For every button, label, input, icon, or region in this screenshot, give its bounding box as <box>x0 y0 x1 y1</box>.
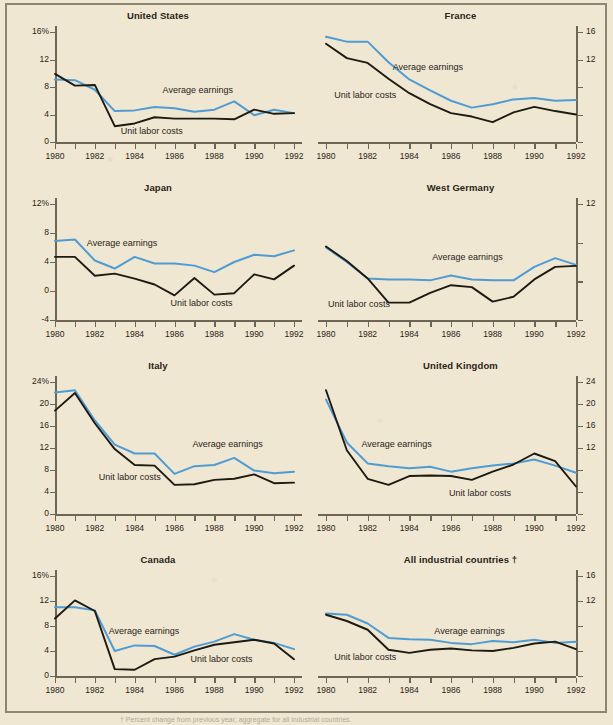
chart-panel-all-industrial-countries: All industrial countries †12161980198219… <box>312 550 609 712</box>
series-plot-area <box>8 178 308 356</box>
series-annotation-average-earnings: Average earnings <box>434 626 504 636</box>
series-line-unit-labor-costs <box>326 44 576 122</box>
series-plot-area <box>312 178 609 356</box>
series-line-average-earnings <box>55 390 294 474</box>
series-annotation-average-earnings: Average earnings <box>109 626 179 636</box>
page-frame-top <box>5 3 607 5</box>
series-line-unit-labor-costs <box>55 74 294 126</box>
series-line-average-earnings <box>326 400 576 473</box>
series-annotation-average-earnings: Average earnings <box>432 252 502 262</box>
series-annotation-average-earnings: Average earnings <box>87 238 157 248</box>
chart-panel-united-states: United States0481216%1980198219841986198… <box>8 6 308 178</box>
chart-panel-france: France12161980198219841986198819901992Av… <box>312 6 609 178</box>
figure-small-multiples-chart: United States0481216%1980198219841986198… <box>0 0 613 725</box>
series-plot-area <box>312 356 609 550</box>
series-annotation-unit-labor-costs: Unit labor costs <box>334 652 396 662</box>
chart-panel-canada: Canada0481216%19801982198419861988199019… <box>8 550 308 712</box>
chart-panel-united-kingdom: United Kingdom12162024198019821984198619… <box>312 356 609 550</box>
series-annotation-average-earnings: Average earnings <box>393 62 463 72</box>
chart-panel-west-germany: West Germany1219801982198419861988199019… <box>312 178 609 356</box>
chart-panel-italy: Italy04812162024%19801982198419861988199… <box>8 356 308 550</box>
chart-panel-japan: Japan-404812%198019821984198619881990199… <box>8 178 308 356</box>
series-annotation-unit-labor-costs: Unit labor costs <box>334 90 396 100</box>
figure-footnote: † Percent change from previous year; agg… <box>120 716 352 723</box>
series-annotation-unit-labor-costs: Unit labor costs <box>171 298 233 308</box>
series-plot-area <box>8 6 308 178</box>
series-annotation-unit-labor-costs: Unit labor costs <box>328 299 390 309</box>
series-plot-area <box>8 356 308 550</box>
series-annotation-unit-labor-costs: Unit labor costs <box>449 488 511 498</box>
series-annotation-unit-labor-costs: Unit labor costs <box>121 126 183 136</box>
series-annotation-unit-labor-costs: Unit labor costs <box>99 472 161 482</box>
series-annotation-average-earnings: Average earnings <box>361 439 431 449</box>
series-annotation-average-earnings: Average earnings <box>192 439 262 449</box>
series-annotation-unit-labor-costs: Unit labor costs <box>190 654 252 664</box>
series-annotation-average-earnings: Average earnings <box>163 85 233 95</box>
